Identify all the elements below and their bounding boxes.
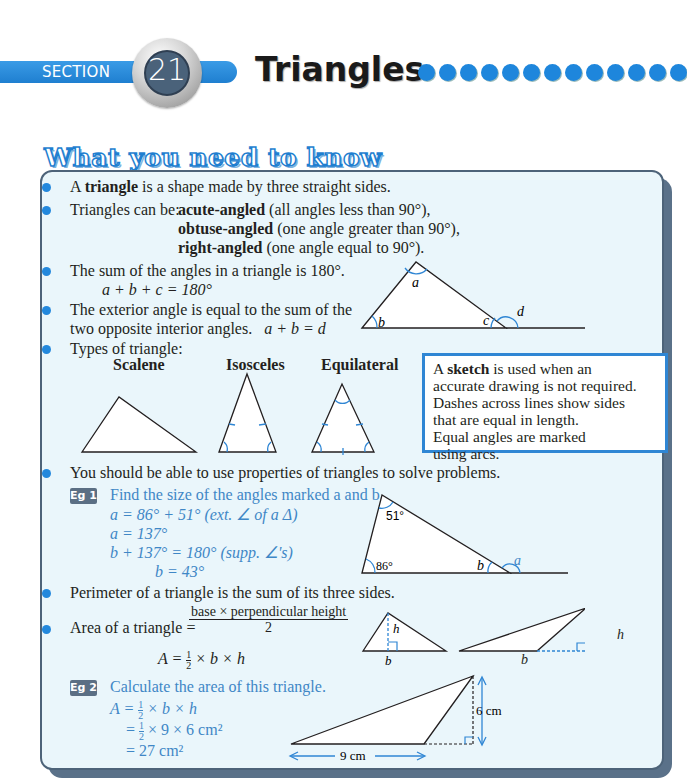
decorative-dot (670, 64, 687, 81)
label-b: b (521, 650, 528, 669)
sketch-note-line: Equal angles are marked (433, 428, 657, 445)
decorative-dot (460, 64, 477, 81)
decorative-dot (628, 64, 645, 81)
eg2-triangle (291, 676, 473, 744)
eg2-diagram: 9 cm 6 cm (285, 672, 505, 763)
bullet-icon (42, 306, 51, 315)
label-b: b (385, 653, 392, 665)
solve-problems-text: You should be able to use properties of … (70, 463, 500, 482)
decorative-dots (418, 64, 687, 81)
eg1-step: a = 86° + 51° (ext. ∠ of a Δ) (110, 505, 298, 524)
eg2-step: A = 12 × b × h (110, 699, 197, 721)
equilateral-triangle (312, 384, 374, 452)
angle-label-a: a (514, 553, 521, 568)
height-label: 6 cm (476, 703, 502, 718)
decorative-dot (523, 64, 540, 81)
bullet-icon (42, 206, 51, 215)
angle-sum-diagram: a b c d (355, 255, 615, 335)
decorative-dot (481, 64, 498, 81)
base-label: 9 cm (340, 748, 366, 763)
area-denominator: 2 (189, 620, 348, 635)
decorative-dot (418, 64, 435, 81)
area-numerator: base × perpendicular height (189, 604, 348, 620)
angle-label-51: 51° (386, 509, 404, 523)
page-title: Triangles (255, 50, 424, 89)
bullet-icon (42, 469, 51, 478)
bullet-icon (42, 183, 51, 192)
example-tag: Eg 2 (70, 680, 97, 696)
area-triangle-2 (459, 608, 585, 651)
sketch-note-line: accurate drawing is not required. (433, 377, 657, 394)
decorative-dot (649, 64, 666, 81)
exterior-angle-text-2: two opposite interior angles. a + b = d (70, 319, 326, 338)
triangle-definition: A triangle is a shape made by three stra… (70, 177, 391, 196)
label-h: h (393, 621, 400, 636)
area-label: Area of a triangle = (70, 618, 195, 637)
decorative-dot (586, 64, 603, 81)
decorative-dot (607, 64, 624, 81)
example-tag: Eg 1 (70, 488, 97, 504)
area-fraction: base × perpendicular height 2 (189, 604, 348, 635)
types-intro: Triangles can be: (70, 200, 180, 219)
eg1-step: b = 43° (155, 562, 204, 581)
area-triangle-1 (363, 613, 446, 651)
right-angle-mark (577, 643, 585, 651)
decorative-dot (544, 64, 561, 81)
sketch-note-box: A sketch is used when an accurate drawin… (422, 353, 668, 453)
section-label: SECTION (42, 63, 110, 81)
decorative-dot (565, 64, 582, 81)
bullet-icon (42, 625, 51, 634)
sketch-note-line: Dashes across lines show sides (433, 394, 657, 411)
triangle-types-diagram (75, 370, 405, 455)
type-obtuse: obtuse-angled (one angle greater than 90… (178, 219, 460, 238)
sketch-note-line: using arcs. (433, 445, 657, 462)
bullet-icon (42, 345, 51, 354)
area-formula: A = 12 × b × h (158, 649, 245, 671)
perimeter-text: Perimeter of a triangle is the sum of it… (70, 583, 395, 602)
eg1-step: b + 137° = 180° (supp. ∠'s) (110, 543, 293, 562)
bullet-icon (42, 267, 51, 276)
label-c: c (483, 313, 490, 328)
label-h: h (617, 625, 624, 644)
area-diagrams: h b (355, 605, 585, 665)
label-d: d (517, 304, 525, 319)
sketch-note-line: A sketch is used when an (433, 360, 657, 377)
bullet-icon (42, 589, 51, 598)
sketch-note-line: that are equal in length. (433, 411, 657, 428)
label-b: b (378, 315, 385, 330)
section-number: 21 (144, 52, 190, 87)
angle-label-86: 86° (376, 559, 393, 573)
angle-label-b: b (477, 558, 484, 573)
type-acute: acute-angled (all angles less than 90°), (178, 200, 431, 219)
right-angle-mark (465, 737, 473, 744)
section-heading: What you need to know (44, 143, 382, 172)
exterior-angle-text-1: The exterior angle is equal to the sum o… (70, 300, 352, 319)
eg2-step: = 27 cm² (126, 741, 183, 760)
scalene-triangle (82, 397, 196, 452)
isosceles-triangle (219, 374, 276, 452)
angle-sum-equation: a + b + c = 180° (102, 280, 212, 299)
eg1-step: a = 137° (110, 524, 167, 543)
eg2-step: = 12 × 9 × 6 cm² (126, 720, 222, 742)
decorative-dot (439, 64, 456, 81)
angle-sum-text: The sum of the angles in a triangle is 1… (70, 261, 345, 280)
label-a: a (412, 275, 419, 290)
decorative-dot (502, 64, 519, 81)
eg1-question: Find the size of the angles marked a and… (110, 485, 384, 504)
eg1-diagram: 51° 86° b a (350, 485, 590, 575)
